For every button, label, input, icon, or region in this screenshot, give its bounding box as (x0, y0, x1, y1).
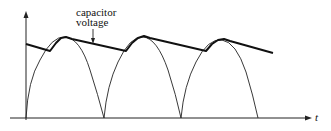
x-axis-label: t (315, 111, 318, 123)
capacitor-voltage-label: capacitor voltage (76, 7, 116, 27)
y-axis-arrow-icon (24, 11, 29, 18)
rectified-waveform (26, 37, 258, 118)
label-line-2: voltage (76, 17, 116, 27)
x-axis-arrow-icon (305, 116, 312, 121)
diagram-canvas (0, 0, 331, 131)
